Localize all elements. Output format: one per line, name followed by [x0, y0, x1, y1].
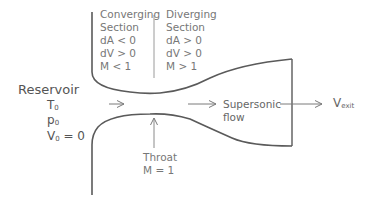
reservoir-label: Reservoir [18, 82, 79, 97]
diverging-area-condition: dA > 0 [166, 34, 217, 47]
diverging-title: Diverging [166, 8, 217, 21]
converging-velocity-condition: dV > 0 [100, 47, 160, 60]
converging-subtitle: Section [100, 21, 160, 34]
exit-velocity-label: Vexit [333, 96, 354, 110]
throat-mach: M = 1 [143, 164, 177, 177]
throat-title: Throat [143, 151, 177, 164]
converging-title: Converging [100, 8, 160, 21]
converging-mach-condition: M < 1 [100, 60, 160, 73]
diverging-subtitle: Section [166, 21, 217, 34]
lower-nozzle-wall [92, 114, 292, 195]
converging-section-label: Converging Section dA < 0 dV > 0 M < 1 [100, 8, 160, 73]
diverging-mach-condition: M > 1 [166, 60, 217, 73]
reservoir-velocity: V0 = 0 [47, 129, 85, 147]
converging-area-condition: dA < 0 [100, 34, 160, 47]
flow-label-line1: Supersonic [223, 98, 281, 111]
flow-label-line2: flow [223, 111, 281, 124]
supersonic-flow-label: Supersonic flow [223, 98, 281, 124]
throat-label: Throat M = 1 [143, 151, 177, 177]
diverging-section-label: Diverging Section dA > 0 dV > 0 M > 1 [166, 8, 217, 73]
diverging-velocity-condition: dV > 0 [166, 47, 217, 60]
